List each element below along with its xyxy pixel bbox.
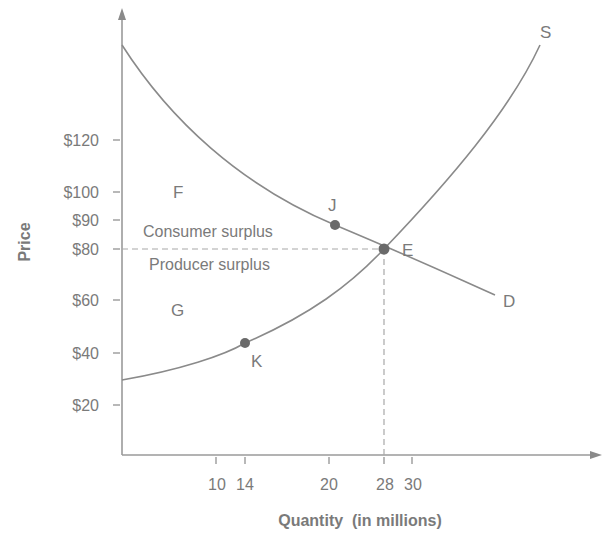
point-k-marker [240,338,250,348]
y-axis-title: Price [16,222,33,261]
supply-demand-chart: $120 $100 $90 $80 $60 $40 $20 10 14 20 2… [0,0,607,538]
region-f-label: F [173,183,183,202]
x-tick-20: 20 [320,476,338,493]
y-tick-120: $120 [63,132,99,149]
x-axis-title: Quantity (in millions) [278,512,442,529]
region-g-label: G [171,301,184,320]
y-tick-80: $80 [72,241,99,258]
y-tick-100: $100 [63,184,99,201]
y-tick-60: $60 [72,292,99,309]
y-tick-90: $90 [72,212,99,229]
y-tick-labels: $120 $100 $90 $80 $60 $40 $20 [63,132,99,414]
point-e-marker [379,244,390,255]
x-tick-14: 14 [236,476,254,493]
point-e-label: E [402,241,413,260]
producer-surplus-label: Producer surplus [149,256,270,273]
curve-d-label: D [503,292,515,311]
x-tick-10: 10 [208,476,226,493]
point-k-label: K [251,352,263,371]
y-axis-arrow-icon [118,8,126,20]
y-ticks [113,140,120,405]
point-j-label: J [328,196,337,215]
x-tick-30: 30 [404,476,422,493]
x-tick-labels: 10 14 20 28 30 [208,476,422,493]
consumer-surplus-label: Consumer surplus [143,223,273,240]
point-j-marker [330,220,340,230]
x-axis-arrow-icon [590,451,602,459]
y-tick-40: $40 [72,345,99,362]
curve-s-label: S [540,23,551,42]
y-tick-20: $20 [72,397,99,414]
x-tick-28: 28 [376,476,394,493]
x-ticks [216,457,412,464]
